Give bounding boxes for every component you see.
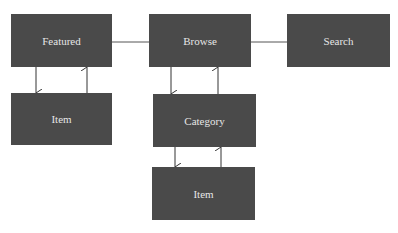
node-browse: Browse: [149, 14, 251, 67]
node-label: Item: [51, 113, 71, 125]
node-label: Featured: [42, 35, 80, 47]
node-featured: Featured: [11, 14, 112, 67]
node-label: Browse: [183, 35, 217, 47]
node-search: Search: [287, 14, 390, 67]
node-item-featured: Item: [11, 93, 112, 145]
node-label: Search: [324, 35, 354, 47]
node-item-category: Item: [152, 167, 255, 220]
node-category: Category: [153, 94, 256, 147]
node-label: Category: [184, 115, 224, 127]
node-label: Item: [193, 188, 213, 200]
